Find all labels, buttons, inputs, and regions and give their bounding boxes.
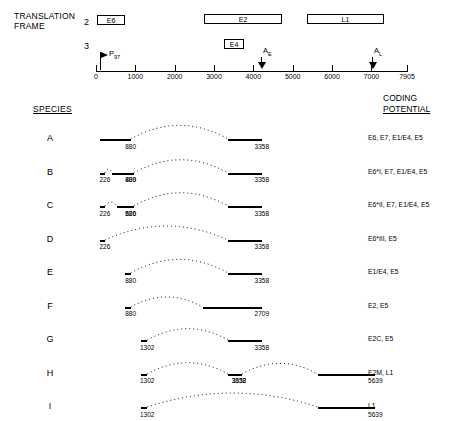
exon-bar bbox=[228, 173, 262, 175]
exon-position-label: 5639 bbox=[355, 411, 395, 418]
exon-bar bbox=[228, 340, 262, 342]
exon-bar bbox=[117, 206, 131, 208]
exon-bar bbox=[141, 374, 147, 376]
coding-potential-text: E6*I, E7, E1/E4, E5 bbox=[368, 168, 427, 175]
exon-bar bbox=[228, 206, 262, 208]
species-row-letter: D bbox=[43, 234, 57, 244]
exon-position-label: 880 bbox=[111, 310, 151, 317]
coding-potential-text: E1/E4, E5 bbox=[368, 268, 399, 275]
exon-position-label: 3358 bbox=[242, 210, 282, 217]
exon-bar bbox=[203, 307, 262, 309]
exon-bar bbox=[228, 374, 239, 376]
intron-splice-lines bbox=[0, 314, 458, 354]
exon-bar bbox=[141, 407, 147, 409]
species-row-letter: G bbox=[43, 334, 57, 344]
exon-position-label: 3358 bbox=[242, 243, 282, 250]
exon-position-label: 5639 bbox=[355, 377, 395, 384]
exon-bar bbox=[318, 407, 375, 409]
coding-potential-text: E6*III, E5 bbox=[368, 235, 397, 242]
exon-bar bbox=[141, 340, 147, 342]
species-row-letter: C bbox=[43, 200, 57, 210]
exon-bar bbox=[125, 273, 130, 275]
exon-position-label: 3358 bbox=[242, 277, 282, 284]
intron-splice-lines bbox=[0, 214, 458, 254]
species-row-letter: A bbox=[43, 133, 57, 143]
exon-bar bbox=[318, 374, 375, 376]
intron-splice-lines bbox=[0, 180, 458, 220]
exon-position-label: 880 bbox=[111, 277, 151, 284]
species-row-letter: E bbox=[43, 267, 57, 277]
exon-bar bbox=[100, 206, 105, 208]
exon-position-label: 1302 bbox=[127, 344, 167, 351]
exon-bar bbox=[100, 173, 105, 175]
exon-bar bbox=[131, 173, 134, 175]
exon-bar bbox=[100, 139, 131, 141]
coding-potential-text: E2C, E5 bbox=[368, 335, 393, 342]
exon-bar bbox=[100, 240, 105, 242]
exon-position-label: 3358 bbox=[242, 143, 282, 150]
coding-potential-text: E6*II, E7, E1/E4, E5 bbox=[368, 201, 429, 208]
intron-splice-lines bbox=[0, 281, 458, 321]
exon-position-label: 880 bbox=[111, 210, 151, 217]
exon-position-label: 3632 bbox=[219, 377, 259, 384]
exon-position-label: 226 bbox=[85, 243, 125, 250]
exon-position-label: 3358 bbox=[242, 344, 282, 351]
exon-position-label: 880 bbox=[111, 176, 151, 183]
exon-bar bbox=[228, 240, 262, 242]
exon-bar bbox=[228, 139, 262, 141]
species-row-letter: B bbox=[43, 167, 57, 177]
exon-position-label: 1302 bbox=[127, 377, 167, 384]
exon-position-label: 880 bbox=[111, 143, 151, 150]
exon-bar bbox=[228, 273, 262, 275]
intron-splice-lines bbox=[0, 247, 458, 287]
coding-potential-text: L1 bbox=[368, 402, 376, 409]
coding-potential-text: E2, E5 bbox=[368, 302, 388, 309]
exon-bar bbox=[125, 307, 130, 309]
species-row-letter: F bbox=[43, 301, 57, 311]
intron-splice-lines bbox=[0, 113, 458, 153]
intron-splice-lines bbox=[0, 147, 458, 187]
species-row-letter: I bbox=[43, 401, 57, 411]
coding-potential-text: E2M, L1 bbox=[368, 369, 393, 376]
exon-bar bbox=[112, 173, 131, 175]
exon-bar bbox=[239, 374, 242, 376]
exon-position-label: 3358 bbox=[242, 176, 282, 183]
species-row-letter: H bbox=[43, 368, 57, 378]
exon-position-label: 1302 bbox=[127, 411, 167, 418]
exon-bar bbox=[131, 206, 134, 208]
coding-potential-text: E6, E7, E1/E4, E5 bbox=[368, 134, 423, 141]
exon-position-label: 2709 bbox=[242, 310, 282, 317]
